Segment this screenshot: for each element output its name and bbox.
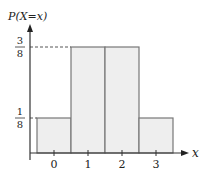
x-axis-arrow-icon [181, 150, 189, 156]
bar-x-3 [139, 118, 173, 153]
y-tick-1-8: 1 8 [15, 106, 25, 130]
x-tick-label-3: 3 [153, 158, 160, 171]
bar-x-0 [37, 118, 71, 153]
y-axis-arrow-icon [27, 24, 33, 32]
bars [37, 47, 173, 153]
bar-x-1 [71, 47, 105, 153]
x-tick-label-1: 1 [85, 158, 92, 171]
y-axis-label: P(X=x) [7, 10, 47, 23]
svg-text:3: 3 [17, 35, 23, 46]
svg-text:8: 8 [17, 119, 23, 130]
probability-bar-chart: 0 1 2 3 x P(X=x) 3 8 1 8 [0, 0, 202, 182]
x-axis-label: x [192, 146, 199, 160]
x-tick-label-0: 0 [51, 158, 58, 171]
bar-x-2 [105, 47, 139, 153]
y-tick-3-8: 3 8 [15, 35, 25, 59]
svg-text:8: 8 [17, 48, 23, 59]
svg-text:1: 1 [17, 106, 23, 117]
x-tick-label-2: 2 [119, 158, 126, 171]
